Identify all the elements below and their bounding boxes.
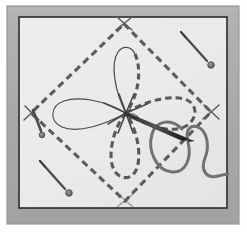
frame-highlight	[9, 8, 237, 11]
pin-left-edge-head	[39, 132, 45, 138]
embroidery-illustration	[0, 0, 247, 232]
pin-bottom-left-head	[66, 190, 73, 197]
illustration-stage: Embroidery hoop fabric with four-petal f…	[0, 0, 247, 232]
pin-top-right-head	[208, 62, 215, 69]
